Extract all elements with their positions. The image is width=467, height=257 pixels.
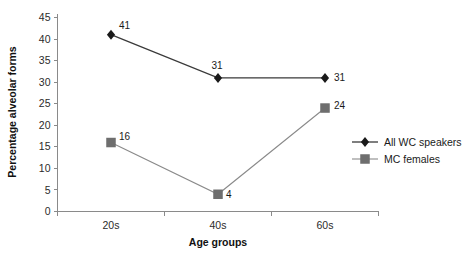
data-point-label: 4 <box>226 189 232 200</box>
x-category-label: 60s <box>317 219 334 231</box>
y-axis-title: Percentage alveolar forms <box>6 46 18 177</box>
y-tick-label: 10 <box>39 162 51 174</box>
series-markers <box>106 30 330 199</box>
data-point-marker-square <box>213 190 223 200</box>
y-tick-label: 45 <box>39 11 51 23</box>
y-axis-tick-labels: 051015202530354045 <box>39 11 51 217</box>
y-tick-label: 40 <box>39 33 51 45</box>
data-point-label: 41 <box>119 20 131 31</box>
line-chart: 051015202530354045 20s40s60s 41313116424… <box>0 0 467 257</box>
y-tick-label: 5 <box>45 184 51 196</box>
y-tick-label: 30 <box>39 76 51 88</box>
data-point-marker-diamond <box>321 73 329 83</box>
chart-container: 051015202530354045 20s40s60s 41313116424… <box>0 0 467 257</box>
data-point-label: 24 <box>334 100 346 111</box>
series-lines <box>111 35 325 195</box>
series-point-labels: 41313116424 <box>119 20 346 201</box>
legend-label: All WC speakers <box>384 136 462 148</box>
data-point-marker-diamond <box>214 73 222 83</box>
y-tick-label: 0 <box>45 205 51 217</box>
chart-legend: All WC speakersMC females <box>352 136 462 165</box>
x-category-label: 20s <box>103 219 120 231</box>
data-point-marker-square <box>320 103 330 113</box>
data-point-label: 31 <box>211 60 223 71</box>
y-tick-label: 15 <box>39 140 51 152</box>
data-point-label: 31 <box>334 72 346 83</box>
y-axis-ticks <box>54 18 58 212</box>
legend-marker-diamond <box>361 137 369 147</box>
x-axis-title: Age groups <box>189 236 247 248</box>
legend-marker-square <box>360 154 370 164</box>
data-point-label: 16 <box>119 131 131 142</box>
data-point-marker-diamond <box>107 30 115 40</box>
series-line <box>111 35 325 78</box>
x-axis-category-labels: 20s40s60s <box>103 219 334 231</box>
y-tick-label: 25 <box>39 97 51 109</box>
series-line <box>111 108 325 194</box>
x-category-label: 40s <box>210 219 227 231</box>
data-point-marker-square <box>106 138 116 148</box>
x-axis-ticks <box>58 212 379 216</box>
legend-label: MC females <box>384 153 440 165</box>
y-tick-label: 20 <box>39 119 51 131</box>
y-tick-label: 35 <box>39 54 51 66</box>
